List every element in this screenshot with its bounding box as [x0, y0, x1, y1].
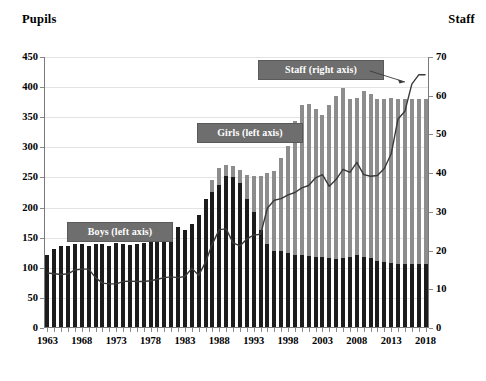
x-tick-mark: [185, 328, 186, 332]
x-tick-mark: [219, 328, 220, 332]
x-tick-mark: [192, 328, 193, 332]
x-tick-mark: [226, 328, 227, 332]
x-tick-label: 1968: [71, 336, 92, 347]
right-tick-label: 60: [436, 90, 447, 101]
legend-callout-staff: Staff (right axis): [258, 60, 384, 80]
left-tick-label: 400: [22, 82, 38, 93]
x-tick-mark: [371, 328, 372, 332]
x-tick-mark: [233, 328, 234, 332]
x-tick-mark: [212, 328, 213, 332]
x-tick-mark: [384, 328, 385, 332]
staff-line-layer: [44, 57, 429, 328]
x-tick-mark: [171, 328, 172, 332]
right-tick-mark: [429, 212, 433, 213]
right-tick-label: 20: [436, 245, 447, 256]
right-tick-label: 30: [436, 207, 447, 218]
x-tick-mark: [75, 328, 76, 332]
legend-callout-boys: Boys (left axis): [67, 222, 173, 242]
x-tick-mark: [343, 328, 344, 332]
x-tick-mark: [377, 328, 378, 332]
x-tick-label: 1963: [37, 336, 58, 347]
x-tick-mark: [364, 328, 365, 332]
x-tick-label: 2003: [312, 336, 333, 347]
right-axis-title: Staff: [448, 12, 475, 27]
right-tick-mark: [429, 328, 433, 329]
x-tick-mark: [206, 328, 207, 332]
right-axis-line: [428, 57, 429, 328]
x-tick-mark: [309, 328, 310, 332]
x-tick-mark: [130, 328, 131, 332]
x-tick-mark: [405, 328, 406, 332]
x-tick-mark: [281, 328, 282, 332]
right-tick-mark: [429, 134, 433, 135]
x-axis-line: [44, 327, 429, 328]
x-tick-label: 1983: [174, 336, 195, 347]
staff-line: [47, 75, 425, 284]
x-tick-label: 1973: [106, 336, 127, 347]
x-tick-mark: [398, 328, 399, 332]
x-tick-mark: [240, 328, 241, 332]
right-tick-mark: [429, 251, 433, 252]
x-tick-mark: [151, 328, 152, 332]
left-tick-label: 200: [22, 202, 38, 213]
right-tick-mark: [429, 289, 433, 290]
right-tick-mark: [429, 96, 433, 97]
x-tick-mark: [157, 328, 158, 332]
x-tick-mark: [295, 328, 296, 332]
x-tick-mark: [137, 328, 138, 332]
left-tick-mark: [40, 328, 44, 329]
right-tick-label: 0: [436, 323, 441, 334]
x-tick-mark: [329, 328, 330, 332]
x-tick-label: 1993: [243, 336, 264, 347]
left-axis-title: Pupils: [22, 12, 57, 27]
x-tick-mark: [302, 328, 303, 332]
x-tick-mark: [322, 328, 323, 332]
left-tick-label: 100: [22, 263, 38, 274]
right-tick-mark: [429, 173, 433, 174]
left-tick-label: 0: [33, 323, 38, 334]
x-tick-label: 1998: [278, 336, 299, 347]
x-tick-mark: [123, 328, 124, 332]
x-tick-mark: [61, 328, 62, 332]
x-tick-mark: [144, 328, 145, 332]
chart-root: Pupils Staff 050100150200250300350400450…: [0, 0, 486, 381]
left-tick-label: 300: [22, 142, 38, 153]
right-tick-label: 10: [436, 284, 447, 295]
x-tick-label: 2008: [346, 336, 367, 347]
x-tick-mark: [116, 328, 117, 332]
x-tick-mark: [357, 328, 358, 332]
right-tick-label: 40: [436, 168, 447, 179]
x-tick-mark: [68, 328, 69, 332]
x-tick-mark: [247, 328, 248, 332]
x-tick-mark: [54, 328, 55, 332]
x-tick-mark: [419, 328, 420, 332]
x-tick-mark: [426, 328, 427, 332]
x-tick-mark: [47, 328, 48, 332]
left-axis-line: [44, 57, 45, 328]
x-tick-mark: [109, 328, 110, 332]
x-tick-mark: [288, 328, 289, 332]
x-tick-mark: [336, 328, 337, 332]
x-tick-mark: [316, 328, 317, 332]
left-tick-label: 250: [22, 172, 38, 183]
x-tick-mark: [178, 328, 179, 332]
x-tick-label: 2013: [381, 336, 402, 347]
right-tick-mark: [429, 57, 433, 58]
plot-area: 050100150200250300350400450 010203040506…: [44, 57, 429, 328]
x-tick-mark: [96, 328, 97, 332]
x-tick-label: 1988: [209, 336, 230, 347]
x-tick-mark: [89, 328, 90, 332]
right-tick-label: 50: [436, 129, 447, 140]
legend-callout-girls: Girls (left axis): [197, 123, 303, 143]
x-tick-mark: [350, 328, 351, 332]
x-tick-mark: [391, 328, 392, 332]
x-tick-mark: [82, 328, 83, 332]
x-tick-mark: [102, 328, 103, 332]
x-tick-mark: [274, 328, 275, 332]
right-tick-label: 70: [436, 52, 447, 63]
left-tick-label: 150: [22, 232, 38, 243]
x-tick-mark: [164, 328, 165, 332]
x-tick-mark: [261, 328, 262, 332]
left-tick-label: 350: [22, 112, 38, 123]
x-tick-label: 1978: [140, 336, 161, 347]
